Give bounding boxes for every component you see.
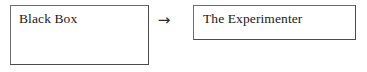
node-experimenter-label: The Experimenter <box>203 11 302 26</box>
node-black-box-label: Black Box <box>19 11 77 26</box>
diagram-canvas: Black Box → The Experimenter <box>0 0 367 72</box>
right-arrow-icon: → <box>152 11 176 29</box>
